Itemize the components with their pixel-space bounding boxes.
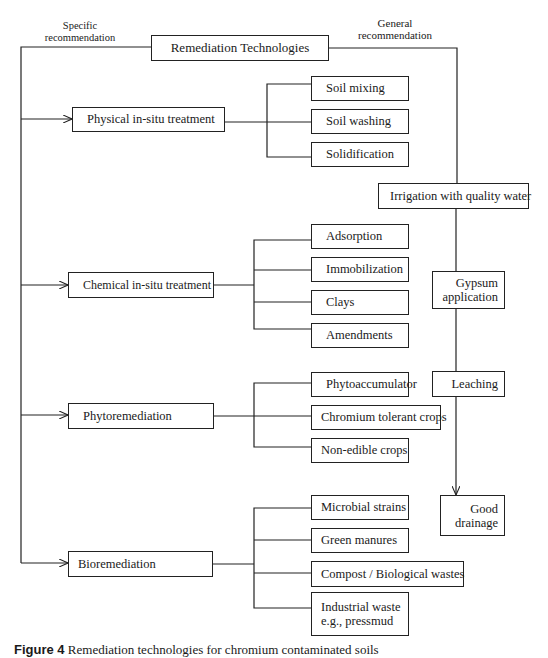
bio-item-line-2: e.g., pressmud — [321, 614, 393, 628]
physical-item: Soil mixing — [311, 76, 409, 101]
general-recommendation-label: General recommendation — [350, 17, 440, 41]
leaching-node: Leaching — [432, 371, 505, 397]
gypsum-line-2: application — [442, 290, 498, 304]
bio-bracket — [254, 508, 311, 608]
bio-node: Bioremediation — [68, 551, 213, 577]
gypsum-node: Gypsum application — [432, 271, 505, 309]
caption-text: Remediation technologies for chromium co… — [68, 642, 379, 657]
phyto-bracket — [254, 383, 311, 447]
physical-item: Solidification — [311, 142, 409, 167]
chemical-item: Immobilization — [311, 257, 409, 282]
specific-recommendation-label: Specific recommendation — [40, 20, 120, 44]
gypsum-line-1: Gypsum — [456, 276, 498, 290]
chemical-item: Amendments — [311, 323, 409, 348]
irrigation-node: Irrigation with quality water — [378, 183, 529, 209]
bio-item: Compost / Biological wastes — [311, 561, 464, 587]
drainage-line-1: Good — [470, 502, 498, 516]
chemical-bracket — [254, 240, 311, 329]
physical-node: Physical in-situ treatment — [72, 107, 225, 132]
drainage-line-2: drainage — [455, 516, 498, 530]
caption-prefix: Figure 4 — [14, 642, 65, 657]
drainage-node: Good drainage — [440, 495, 505, 536]
bio-item: Green manures — [311, 528, 409, 553]
chemical-item: Adsorption — [311, 224, 409, 249]
physical-item: Soil washing — [311, 109, 409, 134]
phyto-item: Non-edible crops — [311, 438, 409, 463]
phyto-item: Phytoaccumulator — [311, 372, 409, 397]
bio-item: Industrial waste e.g., pressmud — [311, 592, 409, 636]
chemical-node: Chemical in-situ treatment — [68, 272, 214, 298]
root-node: Remediation Technologies — [151, 35, 329, 61]
bio-item: Microbial strains — [311, 495, 409, 520]
phyto-node: Phytoremediation — [68, 403, 214, 429]
chemical-item: Clays — [311, 290, 409, 315]
figure-caption: Figure 4 Remediation technologies for ch… — [14, 642, 379, 658]
physical-bracket — [267, 84, 311, 157]
bio-item-line-1: Industrial waste — [321, 600, 401, 614]
phyto-item: Chromium tolerant crops — [311, 405, 441, 430]
